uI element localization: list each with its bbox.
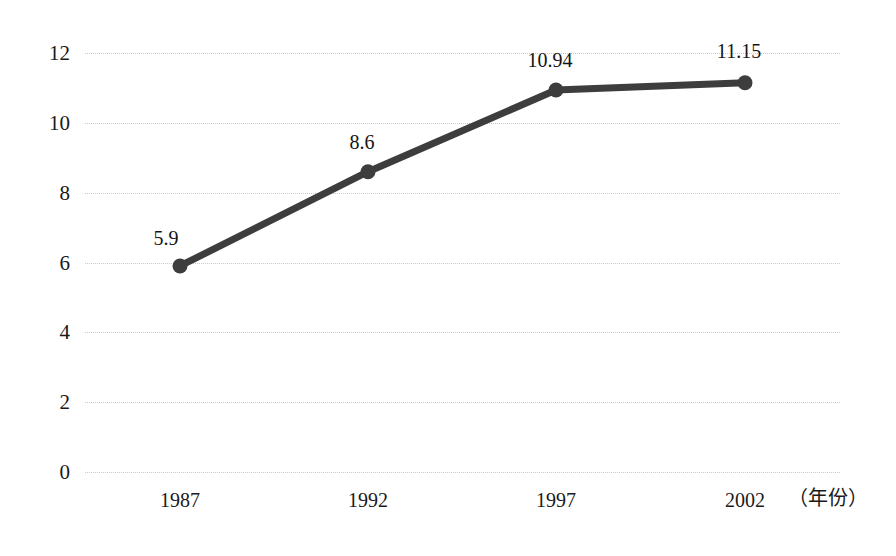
data-point-label: 5.9 [154, 228, 179, 248]
plot-area [85, 53, 840, 472]
gridline [85, 332, 840, 333]
x-tick-label: 1992 [348, 490, 388, 510]
gridline [85, 472, 840, 473]
y-tick-label: 10 [10, 112, 70, 133]
y-axis: 12 10 8 6 4 2 0 [0, 53, 70, 472]
y-tick-label: 8 [10, 182, 70, 203]
x-tick-label: 1997 [536, 490, 576, 510]
gridline [85, 402, 840, 403]
gridline [85, 123, 840, 124]
gridline [85, 193, 840, 194]
y-tick-label: 2 [10, 392, 70, 413]
y-tick-label: 0 [10, 462, 70, 483]
y-tick-label: 4 [10, 322, 70, 343]
data-point-label: 10.94 [528, 50, 573, 70]
line-chart: 12 10 8 6 4 2 0 5.98.610.9411.15 1987 19… [0, 0, 896, 556]
data-point-label: 11.15 [717, 41, 761, 61]
y-tick-label: 6 [10, 252, 70, 273]
y-tick-label: 12 [10, 43, 70, 64]
x-tick-label: 2002 [725, 490, 765, 510]
x-axis-unit-label: （年份） [788, 488, 868, 508]
x-tick-label: 1987 [160, 490, 200, 510]
gridline [85, 263, 840, 264]
data-point-label: 8.6 [350, 132, 375, 152]
